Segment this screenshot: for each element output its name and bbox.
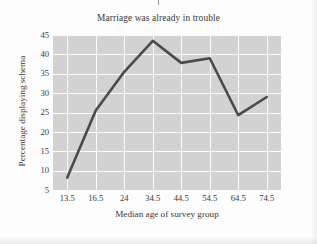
gridline-horizontal xyxy=(53,190,281,191)
page-edge-shading-bottom xyxy=(0,237,317,244)
y-axis-tick-label: 10 xyxy=(27,166,49,175)
page-edge-shading-right xyxy=(311,0,317,244)
page-tick-mark xyxy=(158,0,159,5)
y-axis-tick-label: 30 xyxy=(27,89,49,98)
y-axis-ticks: 51015202530354045 xyxy=(24,35,49,190)
x-axis-ticks: 13.516.52434.544.554.564.574.5 xyxy=(53,194,281,206)
series-line xyxy=(67,41,267,178)
y-axis-tick-label: 20 xyxy=(27,128,49,137)
y-axis-tick-label: 15 xyxy=(27,147,49,156)
y-axis-tick-label: 35 xyxy=(27,69,49,78)
data-line-chart xyxy=(53,35,281,190)
plot-area xyxy=(53,35,281,190)
x-axis-tick-label: 74.5 xyxy=(247,194,287,203)
figure-container: Marriage was already in trouble Percenta… xyxy=(0,0,317,244)
chart-title: Marriage was already in trouble xyxy=(0,13,317,23)
y-axis-tick-label: 25 xyxy=(27,108,49,117)
y-axis-tick-label: 40 xyxy=(27,50,49,59)
x-axis-title: Median age of survey group xyxy=(53,209,281,219)
y-axis-tick-label: 5 xyxy=(27,186,49,195)
y-axis-tick-label: 45 xyxy=(27,31,49,40)
